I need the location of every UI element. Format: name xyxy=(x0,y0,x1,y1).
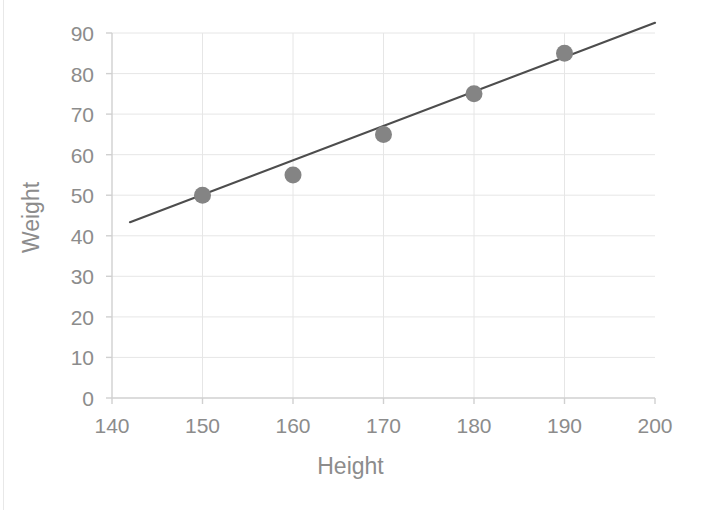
y-tick-label-80: 80 xyxy=(48,64,94,85)
x-tick-label-160: 160 xyxy=(260,415,326,436)
y-tick-label-70: 70 xyxy=(48,104,94,125)
x-axis-title: Height xyxy=(0,455,701,478)
data-point xyxy=(556,45,573,62)
x-tick-label-140: 140 xyxy=(79,415,145,436)
y-tick-label-60: 60 xyxy=(48,145,94,166)
x-axis-ticks xyxy=(112,398,655,404)
x-tick-label-190: 190 xyxy=(532,415,598,436)
y-tick-label-30: 30 xyxy=(48,266,94,287)
vertical-gridlines xyxy=(203,33,565,398)
y-tick-label-40: 40 xyxy=(48,226,94,247)
data-point xyxy=(466,85,483,102)
data-point xyxy=(194,187,211,204)
y-tick-label-10: 10 xyxy=(48,347,94,368)
x-tick-label-150: 150 xyxy=(170,415,236,436)
y-tick-label-50: 50 xyxy=(48,185,94,206)
data-point xyxy=(375,126,392,143)
x-tick-label-180: 180 xyxy=(441,415,507,436)
y-axis-ticks xyxy=(106,33,112,398)
y-axis-title: Weight xyxy=(20,168,43,268)
y-tick-label-90: 90 xyxy=(48,23,94,44)
x-tick-label-170: 170 xyxy=(351,415,417,436)
data-point xyxy=(285,166,302,183)
y-tick-label-20: 20 xyxy=(48,307,94,328)
scatter-chart: 90 80 70 60 50 40 30 20 10 0 140 150 160… xyxy=(0,0,701,510)
x-tick-label-200: 200 xyxy=(622,415,688,436)
y-tick-label-0: 0 xyxy=(48,388,94,409)
